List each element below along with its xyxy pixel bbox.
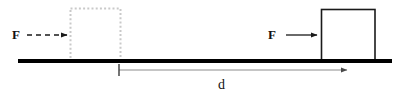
- force-label-left: F: [12, 27, 20, 42]
- force-label-right: F: [268, 27, 276, 42]
- initial-block-ghost: [71, 9, 121, 62]
- force-displacement-diagram: F F d: [0, 0, 400, 94]
- diagram-canvas: F F d: [0, 0, 400, 94]
- displacement-label: d: [218, 77, 225, 92]
- final-block: [322, 10, 376, 62]
